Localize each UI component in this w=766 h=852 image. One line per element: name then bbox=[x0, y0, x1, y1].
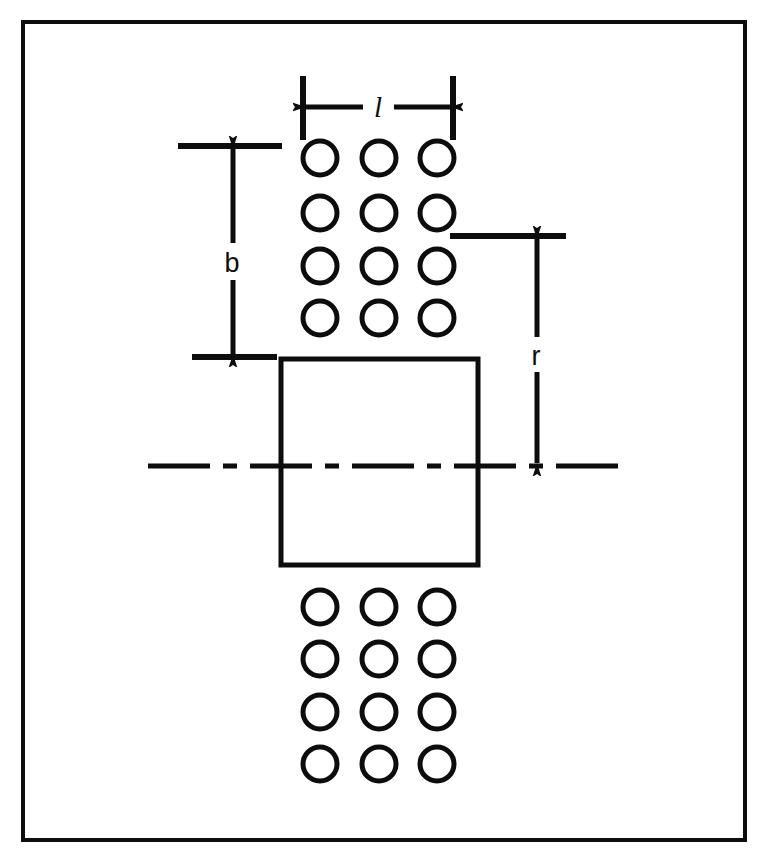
radius-dimension: r bbox=[450, 236, 566, 463]
hole bbox=[362, 249, 396, 283]
hole bbox=[362, 642, 396, 676]
plate-rectangle bbox=[281, 359, 478, 565]
hole bbox=[303, 301, 337, 335]
technical-drawing-figure: l b r bbox=[0, 0, 766, 852]
hole bbox=[303, 747, 337, 781]
edge-distance-dimension: b bbox=[178, 146, 282, 357]
hole bbox=[420, 747, 454, 781]
hole bbox=[303, 249, 337, 283]
hole bbox=[420, 196, 454, 230]
diagram-canvas: l b r bbox=[0, 0, 766, 852]
upper-hole-grid bbox=[303, 141, 454, 335]
hole bbox=[303, 141, 337, 175]
pitch-label: l bbox=[374, 91, 382, 123]
radius-label: r bbox=[532, 341, 541, 371]
pitch-dimension: l bbox=[303, 76, 453, 140]
hole bbox=[420, 590, 454, 624]
hole bbox=[420, 301, 454, 335]
lower-hole-grid bbox=[303, 590, 454, 781]
hole bbox=[420, 642, 454, 676]
hole bbox=[420, 141, 454, 175]
hole bbox=[303, 642, 337, 676]
hole bbox=[362, 196, 396, 230]
hole bbox=[362, 695, 396, 729]
hole bbox=[303, 695, 337, 729]
hole bbox=[303, 590, 337, 624]
hole bbox=[303, 196, 337, 230]
hole bbox=[420, 249, 454, 283]
hole bbox=[362, 141, 396, 175]
hole bbox=[420, 695, 454, 729]
hole bbox=[362, 301, 396, 335]
hole bbox=[362, 590, 396, 624]
edge-distance-label: b bbox=[224, 248, 239, 278]
hole bbox=[362, 747, 396, 781]
figure-border bbox=[23, 22, 745, 840]
